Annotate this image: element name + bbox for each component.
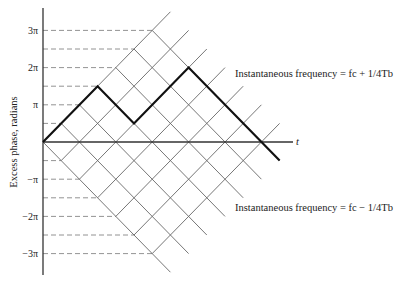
annotation-upper-frequency: Instantaneous frequency = fc + 1/4Tb xyxy=(235,68,393,79)
phase-trellis-diagram: 3π2ππ−π−2π−3π Excess phase, radians t In… xyxy=(0,0,394,282)
annotation-lower-frequency: Instantaneous frequency = fc − 1/4Tb xyxy=(235,202,393,213)
y-tick-label: 2π xyxy=(28,62,38,73)
lattice-line-rising xyxy=(98,68,225,198)
t-axis-label: t xyxy=(296,136,300,147)
lattice-line-falling xyxy=(61,123,188,253)
lattice-line-rising xyxy=(152,123,279,253)
lattice-line-rising xyxy=(61,30,188,160)
lattice-line-falling xyxy=(79,105,206,235)
lattice-line-falling xyxy=(43,142,170,272)
y-tick-label: π xyxy=(33,99,38,110)
lattice-line-rising xyxy=(116,86,243,216)
lattice-line-rising xyxy=(134,105,261,235)
lattice-line-falling xyxy=(116,68,243,198)
y-tick-label: −3π xyxy=(22,248,38,259)
y-tick-labels: 3π2ππ−π−2π−3π xyxy=(22,25,38,259)
y-tick-label: −π xyxy=(27,174,38,185)
y-tick-label: −2π xyxy=(22,211,38,222)
y-tick-label: 3π xyxy=(28,25,38,36)
y-axis-title: Excess phase, radians xyxy=(8,96,19,187)
